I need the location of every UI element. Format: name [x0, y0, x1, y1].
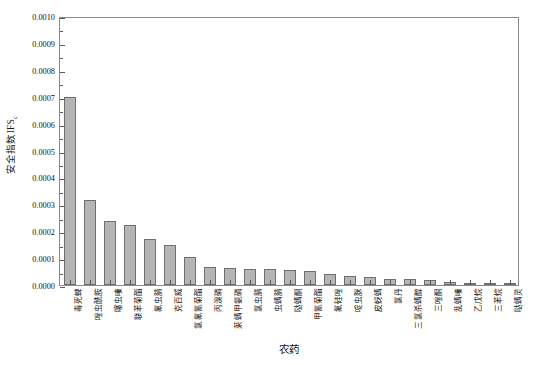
y-axis-tick-mark: [60, 18, 65, 19]
x-axis-tick-label: 哒螨灵: [512, 288, 523, 340]
y-axis-tick-label: 0.0001: [32, 255, 55, 264]
y-axis-minor-tick-mark: [60, 112, 63, 113]
y-axis-minor-tick-mark: [60, 31, 63, 32]
x-axis-tick-label: 乱螨嗪: [452, 288, 463, 340]
x-axis-tick-mark: [150, 280, 151, 285]
y-axis-tick-label: 0.0007: [32, 93, 55, 102]
x-axis-tick-mark: [90, 280, 91, 285]
x-axis-tick-label: 毒死蜱: [72, 288, 83, 340]
y-axis-tick-label: 0.0009: [32, 39, 55, 48]
x-axis-tick-mark: [70, 280, 71, 285]
y-axis-tick-label: 0.0010: [32, 13, 55, 22]
y-axis-tick-label: 0.0005: [32, 147, 55, 156]
x-axis-tick-mark: [470, 280, 471, 285]
bar-series: [60, 18, 518, 285]
x-axis-tick-label: 克百威: [172, 288, 183, 340]
bar: [124, 225, 136, 285]
x-axis-tick-label: 联苯菊酯: [132, 288, 143, 340]
x-axis-tick-mark: [330, 280, 331, 285]
x-axis-tick-label: 虫螨腈: [272, 288, 283, 340]
x-axis-tick-mark: [510, 280, 511, 285]
x-axis-tick-mark: [190, 280, 191, 285]
y-axis-tick-mark: [60, 233, 65, 234]
y-axis-tick-label: 0.0003: [32, 201, 55, 210]
x-axis-tick-mark: [370, 280, 371, 285]
x-axis-tick-label: 氯虫腈: [252, 288, 263, 340]
x-axis-tick-label: 氯氟氰菊酯: [192, 288, 203, 340]
y-axis-tick-mark: [60, 99, 65, 100]
x-axis-tick-mark: [230, 280, 231, 285]
x-axis-tick-mark: [270, 280, 271, 285]
chart-figure: 安全指数IFSc 0.00000.00010.00020.00030.00040…: [0, 0, 535, 365]
bar: [104, 221, 116, 285]
x-axis-tick-mark: [110, 280, 111, 285]
bar: [64, 97, 76, 285]
x-axis-tick-label: 啶虫脒: [352, 288, 363, 340]
y-axis-minor-tick-mark: [60, 247, 63, 248]
y-axis-tick-label: 0.0006: [32, 120, 55, 129]
y-axis-minor-tick-mark: [60, 274, 63, 275]
x-axis-tick-label: 皮蚜螨: [372, 288, 383, 340]
x-axis-tick-label: 丙溴磷: [212, 288, 223, 340]
x-axis-tick-mark: [350, 280, 351, 285]
x-axis-tick-label: 三苯烷: [492, 288, 503, 340]
y-axis-tick-mark: [60, 126, 65, 127]
x-axis-tick-label: 甲氰菊酯: [312, 288, 323, 340]
x-axis-tick-label: 噻虫嗪: [112, 288, 123, 340]
x-axis-tick-mark: [450, 280, 451, 285]
x-axis-tick-label: 氟硅唑: [332, 288, 343, 340]
y-axis-tick-mark: [60, 72, 65, 73]
y-axis-tick-label: 0.0002: [32, 228, 55, 237]
y-axis-minor-tick-mark: [60, 139, 63, 140]
y-axis-tick-mark: [60, 179, 65, 180]
bar: [144, 239, 156, 285]
x-axis-tick-label: 乙戊烷: [472, 288, 483, 340]
y-axis-minor-tick-mark: [60, 166, 63, 167]
y-axis-tick-labels: 0.00000.00010.00020.00030.00040.00050.00…: [18, 0, 58, 290]
y-axis-minor-tick-mark: [60, 193, 63, 194]
x-axis-tick-label: 哒螨酮: [292, 288, 303, 340]
x-axis-tick-label: 三唑酮: [432, 288, 443, 340]
y-axis-minor-tick-mark: [60, 220, 63, 221]
x-axis-tick-label: 唑虫酰胺: [92, 288, 103, 340]
x-axis-tick-mark: [310, 280, 311, 285]
x-axis-tick-mark: [210, 280, 211, 285]
x-axis-tick-mark: [290, 280, 291, 285]
y-axis-tick-mark: [60, 153, 65, 154]
x-axis-tick-mark: [170, 280, 171, 285]
y-axis-title-text: 安全指数IFS: [6, 119, 16, 174]
y-axis-tick-mark: [60, 206, 65, 207]
x-axis-tick-label: 莱螨甲氨磷: [232, 288, 243, 340]
y-axis-tick-label: 0.0004: [32, 174, 55, 183]
x-axis-title: 农药: [59, 341, 519, 356]
x-axis-tick-mark: [250, 280, 251, 285]
y-axis-minor-tick-mark: [60, 85, 63, 86]
x-axis-tick-mark: [390, 280, 391, 285]
y-axis-tick-label: 0.0000: [32, 282, 55, 291]
x-axis-tick-labels: 毒死蜱唑虫酰胺噻虫嗪联苯菊酯氟虫腈克百威氯氟氰菊酯丙溴磷莱螨甲氨磷氯虫腈虫螨腈哒…: [59, 288, 519, 340]
bar: [164, 245, 176, 285]
y-axis-tick-label: 0.0008: [32, 66, 55, 75]
x-axis-tick-mark: [410, 280, 411, 285]
x-axis-tick-label: 三氯杀螨醇: [412, 288, 423, 340]
x-axis-tick-label: 氟虫腈: [152, 288, 163, 340]
plot-area: [59, 17, 519, 286]
bar: [84, 200, 96, 285]
y-axis-tick-mark: [60, 260, 65, 261]
x-axis-tick-mark: [430, 280, 431, 285]
x-axis-tick-mark: [130, 280, 131, 285]
y-axis-minor-tick-mark: [60, 58, 63, 59]
y-axis-tick-mark: [60, 45, 65, 46]
x-axis-tick-label: 氯丹: [392, 288, 403, 340]
x-axis-tick-mark: [490, 280, 491, 285]
